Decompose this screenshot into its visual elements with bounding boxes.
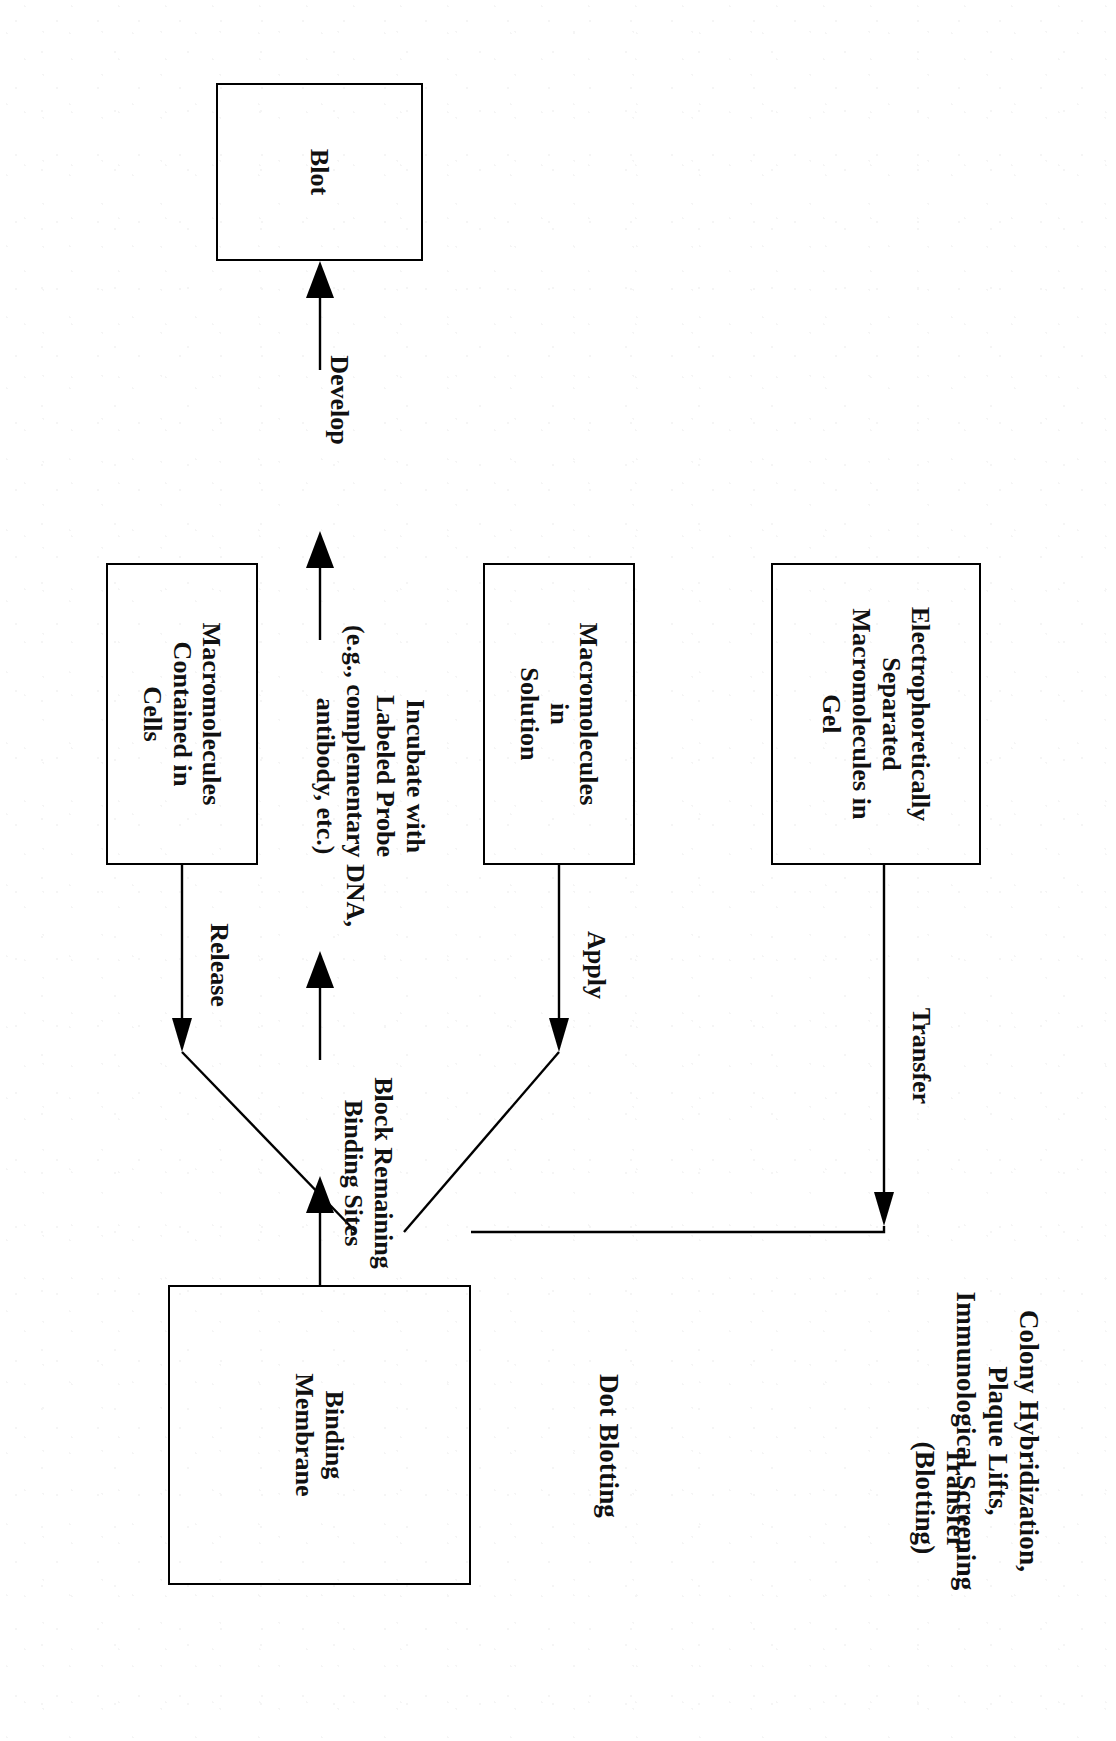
node-binding-membrane: Binding Membrane — [168, 1285, 471, 1585]
edge-label-transfer: Transfer — [906, 966, 936, 1146]
node-label: Blot — [305, 149, 335, 196]
figure-canvas: Colony Hybridization, Plaque Lifts, Immu… — [0, 0, 1116, 1741]
node-blot: Blot — [216, 83, 423, 261]
edge-label-release: Release — [204, 880, 234, 1050]
node-label: Macromolecules in Solution — [515, 623, 604, 806]
edge-label-apply: Apply — [581, 885, 611, 1045]
node-macromolecules-in-gel: Electrophoretically Separated Macromolec… — [771, 563, 981, 865]
node-label: Electrophoretically Separated Macromolec… — [817, 607, 936, 822]
edge-label-develop: Develop — [324, 300, 354, 500]
heading-dot-blotting: Dot Blotting — [593, 1281, 624, 1611]
edge-label-block-remaining-binding-sites: Block Remaining Binding Sites — [338, 1058, 398, 1288]
node-label: Binding Membrane — [290, 1373, 349, 1497]
node-label: Macromolecules Contained in Cells — [138, 623, 227, 806]
node-macromolecules-in-solution: Macromolecules in Solution — [483, 563, 635, 865]
node-macromolecules-in-cells: Macromolecules Contained in Cells — [106, 563, 258, 865]
edge-label-incubate-with-labeled-probe: Incubate with Labeled Probe (e.g., compl… — [309, 571, 430, 981]
connector-transfer — [471, 865, 894, 1232]
heading-transfer-blotting: Transfer (Blotting) — [908, 1333, 971, 1663]
connector-membrane-to-block — [306, 1176, 334, 1285]
